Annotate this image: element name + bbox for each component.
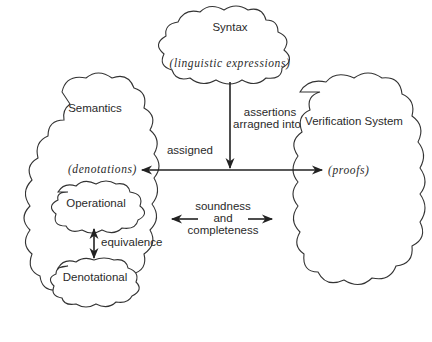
verification-title: Verification System: [305, 115, 403, 127]
proofs-label: (proofs): [328, 164, 369, 177]
assigned-label: assigned: [167, 144, 213, 156]
syntax-title: Syntax: [212, 21, 247, 33]
and-label: and: [213, 212, 232, 224]
equivalence-label: equivalence: [101, 236, 162, 248]
diagram-canvas: Syntax (linguistic expressions) assertio…: [0, 0, 432, 342]
completeness-label: completeness: [188, 224, 259, 236]
syntax-cloud: [158, 6, 289, 84]
denotational-title: Denotational: [63, 271, 128, 283]
assertions-label-1: assertions: [244, 106, 297, 118]
denotations-label: (denotations): [68, 163, 137, 176]
semantics-title: Semantics: [68, 102, 122, 114]
soundness-label: soundness: [195, 200, 251, 212]
assertions-label-2: arragned into: [233, 118, 301, 130]
verification-system-cloud: [293, 73, 425, 285]
operational-title: Operational: [66, 197, 125, 209]
syntax-subtitle: (linguistic expressions): [170, 57, 291, 70]
